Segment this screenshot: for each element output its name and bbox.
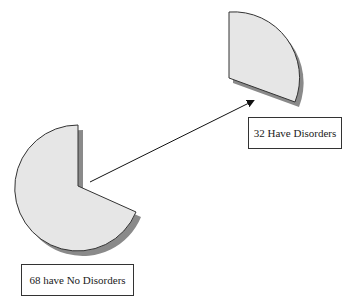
label-no-disorders-text: 68 have No Disorders [29,274,125,286]
label-have-disorders-text: 32 Have Disorders [254,127,336,139]
label-have-disorders: 32 Have Disorders [248,117,342,149]
pie-diagram [0,0,355,307]
slice-have-disorders [229,12,300,102]
arrow-icon [90,101,253,182]
label-no-disorders: 68 have No Disorders [21,264,134,296]
slice-no-disorders [15,125,136,251]
